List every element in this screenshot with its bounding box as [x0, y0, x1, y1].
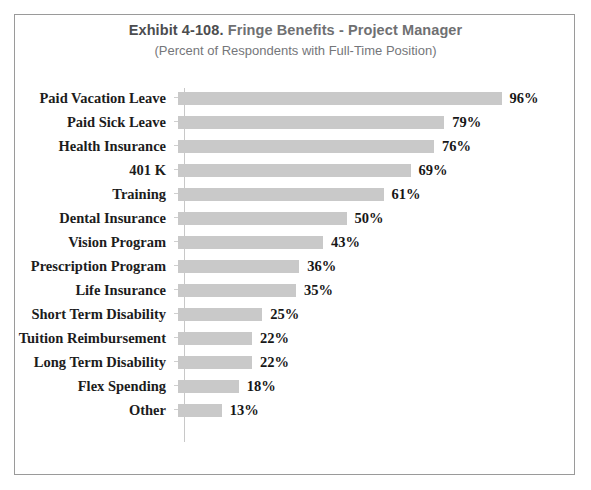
bar — [178, 284, 296, 297]
bar-value-label: 35% — [304, 283, 333, 298]
bar — [178, 212, 347, 225]
bar-track: 36% — [178, 254, 561, 278]
bar-category-label: Short Term Disability — [0, 307, 178, 322]
bar — [178, 140, 434, 153]
bar — [178, 164, 411, 177]
bar-row: Paid Sick Leave79% — [0, 110, 561, 134]
bar-track: 96% — [178, 86, 561, 110]
bar-value-label: 50% — [355, 211, 384, 226]
bar-track: 22% — [178, 326, 561, 350]
chart-title-text: Fringe Benefits - Project Manager — [228, 22, 463, 38]
bar-value-label: 69% — [419, 163, 448, 178]
bar — [178, 332, 252, 345]
bar-category-label: Dental Insurance — [0, 211, 178, 226]
bar-row: Other13% — [0, 398, 561, 422]
bar-category-label: Long Term Disability — [0, 355, 178, 370]
bar-row: Long Term Disability22% — [0, 350, 561, 374]
bar-value-label: 18% — [247, 379, 276, 394]
bar-value-label: 13% — [230, 403, 259, 418]
axis-tick — [174, 97, 178, 98]
bar-value-label: 61% — [392, 187, 421, 202]
bar-track: 18% — [178, 374, 561, 398]
bar-value-label: 25% — [270, 307, 299, 322]
bar — [178, 116, 444, 129]
bar — [178, 92, 502, 105]
bar-track: 61% — [178, 182, 561, 206]
bar-track: 35% — [178, 278, 561, 302]
bar-track: 13% — [178, 398, 561, 422]
chart-title: Exhibit 4-108. Fringe Benefits - Project… — [0, 22, 591, 38]
bar-row: Tuition Reimbursement22% — [0, 326, 561, 350]
bar-category-label: Prescription Program — [0, 259, 178, 274]
bar-category-label: Health Insurance — [0, 139, 178, 154]
axis-tick — [174, 265, 178, 266]
axis-tick — [174, 289, 178, 290]
bar-track: 50% — [178, 206, 561, 230]
bar-value-label: 76% — [442, 139, 471, 154]
bar-row: Dental Insurance50% — [0, 206, 561, 230]
bar-category-label: Other — [0, 403, 178, 418]
bar-track: 79% — [178, 110, 561, 134]
bar — [178, 260, 299, 273]
bar-row: Prescription Program36% — [0, 254, 561, 278]
bar-category-label: Paid Sick Leave — [0, 115, 178, 130]
bar-value-label: 36% — [307, 259, 336, 274]
bar-row: Paid Vacation Leave96% — [0, 86, 561, 110]
axis-tick — [174, 193, 178, 194]
bar-chart-plot: Paid Vacation Leave96%Paid Sick Leave79%… — [0, 86, 561, 456]
axis-tick — [174, 385, 178, 386]
bar-track: 43% — [178, 230, 561, 254]
bar — [178, 404, 222, 417]
bar-track: 69% — [178, 158, 561, 182]
bar-category-label: Tuition Reimbursement — [0, 331, 178, 346]
axis-tick — [174, 121, 178, 122]
bar-row: Vision Program43% — [0, 230, 561, 254]
axis-tick — [174, 409, 178, 410]
bar-value-label: 22% — [260, 331, 289, 346]
bar-category-label: Life Insurance — [0, 283, 178, 298]
bar — [178, 380, 239, 393]
chart-subtitle: (Percent of Respondents with Full-Time P… — [0, 43, 591, 58]
bar-row: Training61% — [0, 182, 561, 206]
axis-tick — [174, 145, 178, 146]
bar-row: 401 K69% — [0, 158, 561, 182]
chart-page: Exhibit 4-108. Fringe Benefits - Project… — [0, 0, 591, 490]
bar-category-label: Training — [0, 187, 178, 202]
bar-value-label: 43% — [331, 235, 360, 250]
bar-category-label: 401 K — [0, 163, 178, 178]
bar — [178, 236, 323, 249]
chart-header: Exhibit 4-108. Fringe Benefits - Project… — [0, 22, 591, 58]
axis-tick — [174, 241, 178, 242]
bar-rows: Paid Vacation Leave96%Paid Sick Leave79%… — [0, 86, 561, 422]
bar-category-label: Paid Vacation Leave — [0, 91, 178, 106]
exhibit-number: Exhibit 4-108. — [129, 22, 224, 38]
axis-tick — [174, 169, 178, 170]
bar — [178, 188, 384, 201]
bar-value-label: 96% — [510, 91, 539, 106]
bar — [178, 356, 252, 369]
bar-track: 22% — [178, 350, 561, 374]
bar — [178, 308, 262, 321]
axis-tick — [174, 313, 178, 314]
bar-track: 76% — [178, 134, 561, 158]
bar-row: Life Insurance35% — [0, 278, 561, 302]
bar-category-label: Flex Spending — [0, 379, 178, 394]
bar-value-label: 79% — [452, 115, 481, 130]
bar-row: Flex Spending18% — [0, 374, 561, 398]
axis-tick — [174, 217, 178, 218]
bar-value-label: 22% — [260, 355, 289, 370]
axis-tick — [174, 337, 178, 338]
axis-tick — [174, 361, 178, 362]
bar-row: Health Insurance76% — [0, 134, 561, 158]
bar-category-label: Vision Program — [0, 235, 178, 250]
bar-row: Short Term Disability25% — [0, 302, 561, 326]
bar-track: 25% — [178, 302, 561, 326]
